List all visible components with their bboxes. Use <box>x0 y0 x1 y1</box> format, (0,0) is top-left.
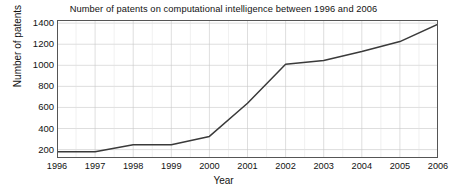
y-axis-tick-label: 1000 <box>24 60 54 70</box>
x-axis-tick-labels: 1996199719981999200020012002200320042005… <box>57 161 438 175</box>
x-axis-tick-label: 2006 <box>418 161 453 172</box>
y-axis-tick-labels: 200400600800100012001400 <box>20 20 54 158</box>
x-axis-tick-label: 2000 <box>189 161 229 172</box>
x-axis-tick-label: 1999 <box>151 161 191 172</box>
x-axis-tick-label: 2002 <box>266 161 306 172</box>
x-axis-tick-label: 2004 <box>342 161 382 172</box>
y-axis-tick-label: 1200 <box>24 39 54 49</box>
y-axis-tick-label: 800 <box>24 81 54 91</box>
x-axis-label: Year <box>0 175 447 187</box>
y-axis-tick-label: 400 <box>24 124 54 134</box>
grid-lines <box>57 20 438 158</box>
chart-title: Number of patents on computational intel… <box>0 3 447 15</box>
y-axis-tick-label: 200 <box>24 145 54 155</box>
x-axis-tick-label: 2005 <box>380 161 420 172</box>
x-axis-tick-label: 1997 <box>75 161 115 172</box>
line-chart-svg <box>57 20 438 158</box>
x-axis-tick-label: 2003 <box>304 161 344 172</box>
x-axis-tick-label: 2001 <box>228 161 268 172</box>
x-axis-tick-label: 1996 <box>37 161 77 172</box>
plot-area <box>57 20 438 158</box>
y-axis-tick-label: 1400 <box>24 18 54 28</box>
x-axis-tick-label: 1998 <box>113 161 153 172</box>
y-axis-tick-label: 600 <box>24 102 54 112</box>
